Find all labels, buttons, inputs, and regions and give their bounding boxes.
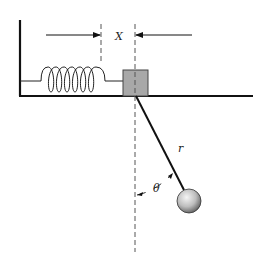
angle-arrow-right [168,173,173,179]
pendulum-bob [177,189,201,213]
angle-label: θ [153,182,160,195]
angle-arrow-left [137,192,143,196]
displacement-label: X [114,30,124,43]
spring-pendulum-diagram: X r θ [0,0,265,269]
length-label: r [178,142,184,155]
pendulum-rod [136,96,184,190]
spring [20,67,123,92]
